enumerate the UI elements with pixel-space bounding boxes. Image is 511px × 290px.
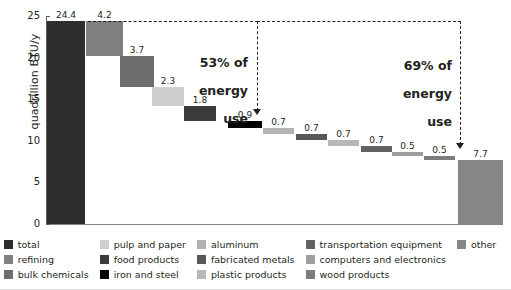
legend-label: pulp and paper — [114, 239, 186, 250]
y-tick-label: 0 — [12, 219, 40, 229]
legend-item-computers-and-electronics[interactable]: computers and electronics — [306, 253, 446, 266]
legend-label: other — [471, 239, 496, 250]
legend-item-transportation-equipment[interactable]: transportation equipment — [306, 238, 446, 251]
legend-swatch-icon — [100, 240, 109, 249]
bar-total — [47, 21, 85, 224]
bar-value-label: 7.7 — [452, 149, 509, 159]
annotation-69-line2: energy — [403, 86, 452, 101]
legend-item-aluminum[interactable]: aluminum — [197, 238, 295, 251]
legend-swatch-icon — [197, 255, 206, 264]
y-tick-label: 20 — [12, 53, 40, 63]
legend-label: wood products — [320, 269, 390, 280]
legend-column-5: other — [457, 238, 496, 288]
legend-item-food-products[interactable]: food products — [100, 253, 186, 266]
y-tick-label: 15 — [12, 94, 40, 104]
bar-value-label: 3.7 — [114, 45, 160, 55]
legend-item-iron-and-steel[interactable]: iron and steel — [100, 268, 186, 281]
legend-label: total — [18, 239, 40, 250]
y-tick-label: 10 — [12, 136, 40, 146]
legend-column-1: totalrefiningbulk chemicals — [4, 238, 89, 288]
legend-label: computers and electronics — [320, 254, 446, 265]
legend-swatch-icon — [306, 270, 315, 279]
bracket-69-vertical — [460, 21, 461, 145]
legend-label: refining — [18, 254, 54, 265]
legend-swatch-icon — [4, 240, 13, 249]
legend-item-plastic-products[interactable]: plastic products — [197, 268, 295, 281]
legend-label: bulk chemicals — [18, 269, 89, 280]
bar-value-label: 4.2 — [80, 10, 129, 20]
annotation-69-line1: 69% of — [404, 58, 452, 73]
bracket-69-arrow-icon — [456, 143, 464, 149]
legend-label: aluminum — [211, 239, 259, 250]
legend-swatch-icon — [197, 240, 206, 249]
annotation-53-line1: 53% of — [200, 55, 248, 70]
legend-item-bulk-chemicals[interactable]: bulk chemicals — [4, 268, 89, 281]
bracket-53-vertical — [257, 21, 258, 111]
x-axis-line — [46, 224, 503, 225]
legend-label: food products — [114, 254, 180, 265]
legend-swatch-icon — [4, 255, 13, 264]
legend-label: plastic products — [211, 269, 287, 280]
legend-column-4: transportation equipmentcomputers and el… — [306, 238, 446, 288]
y-tick-mark — [46, 224, 50, 225]
legend-item-pulp-and-paper[interactable]: pulp and paper — [100, 238, 186, 251]
annotation-53-line2: energy — [199, 83, 248, 98]
annotation-69-line3: use — [427, 114, 452, 129]
annotation-69-percent: 69% of energy use — [372, 45, 452, 129]
y-tick-label: 5 — [12, 177, 40, 187]
legend-item-fabricated-metals[interactable]: fabricated metals — [197, 253, 295, 266]
legend-swatch-icon — [100, 255, 109, 264]
legend-column-2: pulp and paperfood productsiron and stee… — [100, 238, 186, 288]
legend-item-refining[interactable]: refining — [4, 253, 89, 266]
bracket-53-arrow-icon — [253, 109, 261, 115]
legend-label: iron and steel — [114, 269, 179, 280]
legend-swatch-icon — [4, 270, 13, 279]
legend: totalrefiningbulk chemicalspulp and pape… — [0, 238, 511, 288]
bracket-69-horizontal — [257, 21, 461, 22]
legend-column-3: aluminumfabricated metalsplastic product… — [197, 238, 295, 288]
legend-swatch-icon — [306, 255, 315, 264]
bar-wood-products — [424, 156, 455, 160]
legend-swatch-icon — [457, 240, 466, 249]
legend-swatch-icon — [197, 270, 206, 279]
waterfall-chart: quadrillion BTU/y 0510152025 24.44.23.72… — [0, 0, 511, 290]
annotation-53-line3: use — [223, 111, 248, 126]
legend-label: fabricated metals — [211, 254, 295, 265]
legend-item-other[interactable]: other — [457, 238, 496, 251]
bracket-53-horizontal — [88, 21, 258, 22]
bar-other — [458, 160, 503, 224]
legend-label: transportation equipment — [320, 239, 442, 250]
annotation-53-percent: 53% of energy use — [176, 42, 248, 126]
legend-item-total[interactable]: total — [4, 238, 89, 251]
legend-swatch-icon — [306, 240, 315, 249]
legend-item-wood-products[interactable]: wood products — [306, 268, 446, 281]
y-tick-label: 25 — [12, 11, 40, 21]
legend-swatch-icon — [100, 270, 109, 279]
